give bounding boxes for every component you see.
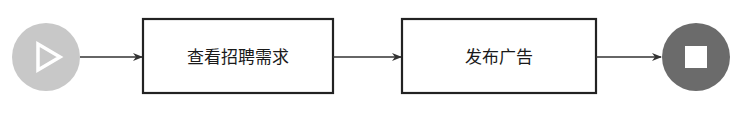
step-label: 查看招聘需求 bbox=[187, 47, 289, 67]
end-node bbox=[662, 23, 730, 91]
step-box-publish-ad: 发布广告 bbox=[402, 19, 596, 93]
step-label: 发布广告 bbox=[465, 47, 533, 67]
step-box-view-requirements: 查看招聘需求 bbox=[143, 19, 333, 93]
stop-icon bbox=[685, 46, 707, 68]
start-node bbox=[12, 23, 80, 91]
flowchart: 查看招聘需求 发布广告 bbox=[0, 0, 747, 113]
